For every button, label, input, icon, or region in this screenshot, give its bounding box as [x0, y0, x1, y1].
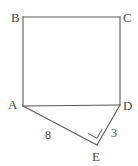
edge-AD [23, 105, 120, 106]
edge-AE [23, 106, 97, 145]
length-label-ed: 3 [111, 127, 117, 139]
vertex-label-c: C [123, 11, 132, 24]
vertex-label-b: B [11, 11, 20, 24]
length-label-ae: 8 [45, 129, 51, 141]
vertex-label-d: D [123, 99, 132, 112]
vertex-label-e: E [92, 150, 100, 163]
right-angle-marker-icon [88, 130, 102, 139]
vertex-label-a: A [8, 98, 17, 111]
geometry-canvas [0, 0, 138, 166]
geometry-figure: B C A D E 8 3 [0, 0, 138, 166]
